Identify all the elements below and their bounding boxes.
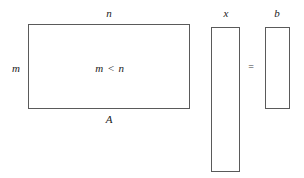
vector-b-label: b <box>274 8 280 19</box>
matrix-a-name-label: A <box>106 114 113 125</box>
matrix-a-top-label: n <box>106 8 112 19</box>
matrix-a-left-label: m <box>12 63 20 74</box>
vector-x-rectangle <box>211 27 240 172</box>
matrix-a-inner-label: m < n <box>95 63 124 74</box>
diagram-canvas: n m m < n A x = b <box>0 0 304 178</box>
vector-b-rectangle <box>265 27 290 109</box>
vector-x-label: x <box>224 8 229 19</box>
equals-sign: = <box>248 62 254 72</box>
